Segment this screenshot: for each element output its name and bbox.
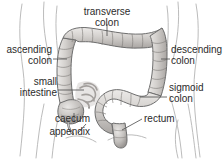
label-rectum: rectum [144, 113, 192, 124]
label-sigmoid-colon: sigmoid colon [169, 82, 221, 104]
label-ascending-colon-line1: ascending [0, 44, 52, 55]
label-appendix: appendix [30, 126, 90, 137]
anatomy-figure: transverse colon ascending colon small i… [0, 0, 224, 161]
sigmoid-colon [95, 90, 161, 134]
label-transverse-colon-line2: colon [76, 17, 138, 28]
label-descending-colon-line1: descending [171, 44, 224, 55]
ascending-colon [57, 38, 76, 103]
descending-colon [148, 28, 167, 96]
label-ascending-colon: ascending colon [0, 44, 52, 66]
label-descending-colon-line2: colon [171, 55, 224, 66]
label-descending-colon: descending colon [171, 44, 224, 66]
label-small-intestine: small intestine [0, 76, 57, 98]
label-rectum-line1: rectum [144, 113, 192, 124]
label-caecum: caecum [36, 113, 90, 124]
rectum [112, 123, 127, 148]
label-small-intestine-line2: intestine [0, 87, 57, 98]
label-sigmoid-colon-line1: sigmoid [169, 82, 221, 93]
label-caecum-line1: caecum [36, 113, 90, 124]
label-transverse-colon-line1: transverse [76, 6, 138, 17]
label-small-intestine-line1: small [0, 76, 57, 87]
label-ascending-colon-line2: colon [0, 55, 52, 66]
label-transverse-colon: transverse colon [76, 6, 138, 28]
label-sigmoid-colon-line2: colon [169, 93, 221, 104]
label-appendix-line1: appendix [30, 126, 90, 137]
